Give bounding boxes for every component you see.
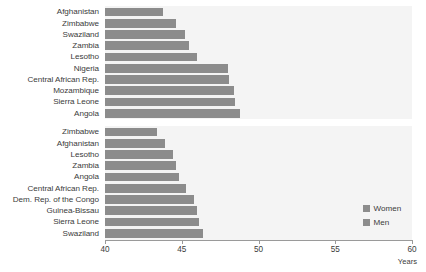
bar-category-label: Central African Rep. [0,74,99,85]
bar-men[interactable] [105,184,186,193]
bar-row: Angola [0,108,426,119]
x-tick-label: 40 [85,245,125,254]
legend-item-men[interactable]: Men [363,216,401,228]
bar-category-label: Dem. Rep. of the Congo [0,194,99,205]
bar-men[interactable] [105,229,203,238]
bar-men[interactable] [105,218,199,227]
x-tick [412,240,413,244]
bar-women[interactable] [105,8,163,17]
bar-row: Lesotho [0,51,426,62]
bar-women[interactable] [105,75,229,84]
bar-women[interactable] [105,86,234,95]
bar-row: Central African Rep. [0,74,426,85]
legend: Women Men [363,202,401,230]
x-tick [335,240,336,244]
bar-category-label: Zimbabwe [0,126,99,137]
bar-row: Central African Rep. [0,183,426,194]
bar-category-label: Nigeria [0,63,99,74]
x-tick-label: 60 [392,245,426,254]
bar-men[interactable] [105,150,173,159]
bar-row: Zambia [0,40,426,51]
bar-women[interactable] [105,30,185,39]
bar-category-label: Lesotho [0,51,99,62]
bar-category-label: Zambia [0,160,99,171]
bar-women[interactable] [105,41,189,50]
bar-row: Mozambique [0,85,426,96]
bar-category-label: Sierra Leone [0,216,99,227]
x-tick [182,240,183,244]
bar-category-label: Mozambique [0,85,99,96]
bar-category-label: Sierra Leone [0,96,99,107]
bar-men[interactable] [105,139,165,148]
bar-category-label: Zambia [0,40,99,51]
x-tick-label: 45 [162,245,202,254]
bar-category-label: Swaziland [0,228,99,239]
bar-category-label: Afghanistan [0,6,99,17]
bar-row: Zimbabwe [0,126,426,137]
x-tick [259,240,260,244]
legend-swatch-men-icon [363,219,370,226]
bar-row: Afghanistan [0,138,426,149]
bar-women[interactable] [105,19,176,28]
legend-swatch-women-icon [363,205,370,212]
bar-category-label: Lesotho [0,149,99,160]
bar-category-label: Angola [0,108,99,119]
bar-row: Afghanistan [0,6,426,17]
bar-category-label: Guinea-Bissau [0,205,99,216]
bar-row: Swaziland [0,29,426,40]
chart-figure: AfghanistanZimbabweSwazilandZambiaLesoth… [0,0,426,272]
bar-men[interactable] [105,161,176,170]
bar-category-label: Zimbabwe [0,18,99,29]
legend-label-women: Women [374,204,402,213]
bar-men[interactable] [105,195,194,204]
bar-women[interactable] [105,98,235,107]
x-tick [105,240,106,244]
legend-label-men: Men [374,218,390,227]
bar-men[interactable] [105,128,157,137]
bar-category-label: Afghanistan [0,138,99,149]
bar-row: Nigeria [0,63,426,74]
bar-row: Sierra Leone [0,96,426,107]
legend-item-women[interactable]: Women [363,202,401,214]
bar-women[interactable] [105,53,197,62]
bar-men[interactable] [105,206,197,215]
bar-category-label: Swaziland [0,29,99,40]
bar-category-label: Angola [0,171,99,182]
bar-row: Angola [0,171,426,182]
x-tick-label: 55 [315,245,355,254]
bar-women[interactable] [105,109,240,118]
x-axis-title: Years [398,257,417,266]
bar-women[interactable] [105,64,228,73]
bar-men[interactable] [105,173,179,182]
bar-row: Lesotho [0,149,426,160]
x-tick-label: 50 [239,245,279,254]
bar-row: Zambia [0,160,426,171]
bar-row: Zimbabwe [0,18,426,29]
bar-category-label: Central African Rep. [0,183,99,194]
